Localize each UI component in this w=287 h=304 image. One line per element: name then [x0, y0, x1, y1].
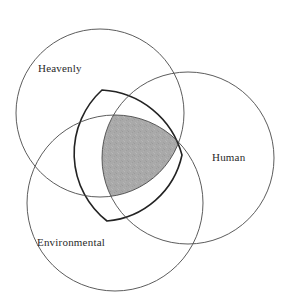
label-heavenly: Heavenly [38, 62, 82, 74]
label-environmental: Environmental [37, 236, 105, 248]
venn-diagram-canvas: Heavenly Human Environmental [0, 0, 287, 304]
venn-diagram: Heavenly Human Environmental [0, 0, 287, 304]
label-human: Human [212, 151, 246, 163]
